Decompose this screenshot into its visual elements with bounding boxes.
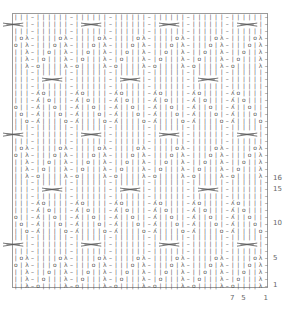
knit-symbol: | [85,110,91,117]
knit-symbol: | [113,152,119,159]
knit-symbol: | [252,62,258,69]
knit-symbol: | [35,145,41,152]
knit-symbol: | [130,275,136,282]
knit-symbol: | [135,207,141,214]
knit-symbol: | [35,152,41,159]
purl-symbol: – [69,262,75,269]
purl-symbol: – [147,207,153,214]
purl-symbol: – [224,28,230,35]
purl-symbol: – [30,76,36,83]
knit-symbol: | [258,220,264,227]
knit-symbol: | [230,234,236,241]
left-decrease-symbol: λ [180,275,186,282]
knit-symbol: | [213,152,219,159]
left-decrease-symbol: λ [219,35,225,42]
knit-symbol: | [174,207,180,214]
left-decrease-symbol: λ [258,262,264,269]
knit-symbol: | [63,76,69,83]
knit-symbol: | [252,193,258,200]
knit-symbol: | [180,110,186,117]
knit-symbol: | [24,234,30,241]
knit-symbol: | [202,282,208,289]
yarn-over-symbol: o [174,255,180,262]
purl-symbol: – [224,241,230,248]
knit-symbol: | [119,213,125,220]
purl-symbol: – [263,28,269,35]
knit-symbol: | [124,227,130,234]
knit-symbol: | [174,234,180,241]
knit-symbol: | [52,117,58,124]
knit-symbol: | [24,213,30,220]
right-decrease-symbol: ʎ [152,207,158,214]
knit-symbol: | [58,62,64,69]
knit-symbol: | [74,76,80,83]
purl-symbol: – [186,152,192,159]
knit-symbol: | [202,21,208,28]
knit-symbol: | [247,275,253,282]
purl-symbol: – [30,186,36,193]
knit-symbol: | [41,227,47,234]
knit-symbol: | [135,69,141,76]
left-decrease-symbol: λ [63,55,69,62]
left-decrease-symbol: λ [102,275,108,282]
yarn-over-symbol: o [197,90,203,97]
knit-symbol: | [52,220,58,227]
knit-symbol: | [130,165,136,172]
knit-symbol: | [158,220,164,227]
knit-symbol: | [208,28,214,35]
right-decrease-symbol: ʎ [35,103,41,110]
purl-symbol: – [69,131,75,138]
knit-symbol: | [202,90,208,97]
purl-symbol: – [224,21,230,28]
yarn-over-symbol: o [191,62,197,69]
purl-symbol: – [147,35,153,42]
knit-symbol: | [52,255,58,262]
knit-symbol: | [124,35,130,42]
knit-symbol: | [41,145,47,152]
purl-symbol: – [69,282,75,289]
knit-symbol: | [236,172,242,179]
knit-symbol: | [191,158,197,165]
knit-symbol: | [130,200,136,207]
purl-symbol: – [147,200,153,207]
left-decrease-symbol: λ [258,282,264,289]
yarn-over-symbol: o [46,207,52,214]
purl-symbol: – [186,158,192,165]
knit-symbol: | [141,131,147,138]
yarn-over-symbol: o [52,262,58,269]
knit-symbol: | [80,255,86,262]
knit-symbol: | [80,234,86,241]
knit-symbol: | [174,103,180,110]
knit-symbol: | [85,179,91,186]
knit-symbol: | [124,62,130,69]
knit-symbol: | [163,186,169,193]
left-decrease-symbol: λ [102,172,108,179]
knit-symbol: | [19,48,25,55]
knit-symbol: | [169,200,175,207]
yarn-over-symbol: o [236,200,242,207]
knit-symbol: | [141,248,147,255]
knit-symbol: | [152,124,158,131]
knit-symbol: | [174,14,180,21]
left-decrease-symbol: λ [219,275,225,282]
knit-symbol: | [13,124,19,131]
knit-symbol: | [119,262,125,269]
purl-symbol: – [108,241,114,248]
knit-symbol: | [135,21,141,28]
knit-symbol: | [24,83,30,90]
knit-symbol: | [208,248,214,255]
column-number-label: 5 [241,294,245,302]
knit-symbol: | [19,248,25,255]
knit-symbol: | [158,158,164,165]
yarn-over-symbol: o [96,255,102,262]
knit-symbol: | [213,158,219,165]
knit-symbol: | [135,90,141,97]
knit-symbol: | [35,131,41,138]
knit-symbol: | [41,172,47,179]
knit-symbol: | [241,42,247,49]
knit-symbol: | [213,172,219,179]
knit-symbol: | [119,152,125,159]
purl-symbol: – [186,131,192,138]
left-decrease-symbol: λ [102,158,108,165]
purl-symbol: – [30,69,36,76]
